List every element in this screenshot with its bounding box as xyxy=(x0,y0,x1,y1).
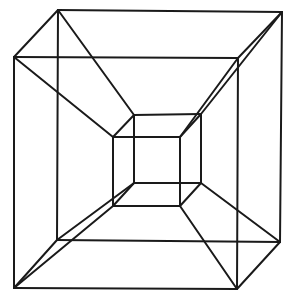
edge-ibtl-iftl xyxy=(113,115,134,137)
edge-oftr-iftr xyxy=(180,58,238,137)
edge-obbr-obbl xyxy=(57,240,280,242)
edge-obbr-ofbr xyxy=(237,242,280,289)
edge-ibbr-ifbr xyxy=(180,183,201,206)
edge-obtl-ibtl xyxy=(58,10,134,115)
edge-ofbr-ofbl xyxy=(14,288,237,289)
edge-obbl-obtl xyxy=(57,10,58,240)
edge-obtr-ibtr xyxy=(201,12,282,114)
edge-oftl-oftr xyxy=(14,57,238,58)
edge-obtr-obbr xyxy=(280,12,282,242)
edge-oftl-iftl xyxy=(14,57,113,137)
edge-obbl-ibbl xyxy=(57,183,134,240)
edge-obtl-obtr xyxy=(58,10,282,12)
edge-ofbr-ifbr xyxy=(180,206,237,289)
edge-obbl-ofbl xyxy=(14,240,57,288)
tesseract-diagram xyxy=(0,0,286,296)
edge-obtl-oftl xyxy=(14,10,58,57)
edge-ibtl-ibtr xyxy=(134,114,201,115)
tesseract-wireframe xyxy=(0,0,286,296)
edge-oftr-ofbr xyxy=(237,58,238,289)
edge-obbr-ibbr xyxy=(201,183,280,242)
edge-ofbl-ifbl xyxy=(14,206,113,288)
